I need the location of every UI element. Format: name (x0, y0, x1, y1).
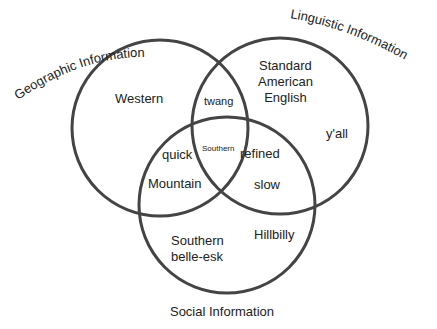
region-standard-american-english: Standard American English (258, 58, 313, 106)
venn-diagram: Geographic Information Linguistic Inform… (0, 0, 437, 329)
region-hillbilly: Hillbilly (254, 227, 294, 243)
region-twang: twang (204, 93, 233, 109)
belle-line-1: Southern (171, 233, 224, 249)
region-mountain: Mountain (148, 176, 201, 192)
linguistic-title: Linguistic Information (289, 6, 410, 62)
sae-line-1: Standard (258, 58, 313, 74)
region-quick: quick (162, 147, 192, 163)
social-title: Social Information (170, 304, 274, 319)
region-refined: refined (240, 146, 280, 162)
sae-line-3: English (258, 90, 313, 106)
region-yall: y'all (326, 126, 348, 142)
belle-line-2: belle-esk (171, 249, 224, 265)
region-slow: slow (254, 177, 280, 193)
region-southern-belle-esk: Southern belle-esk (171, 233, 224, 265)
region-southern-center: Southern (202, 144, 234, 154)
sae-line-2: American (258, 74, 313, 90)
region-western: Western (115, 91, 163, 107)
